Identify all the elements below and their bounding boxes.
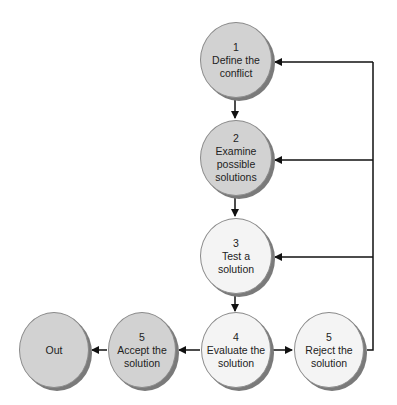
node-out: Out (19, 312, 89, 388)
node-label: solutions (215, 171, 256, 184)
node-number: 1 (233, 41, 239, 54)
node-label: Out (46, 344, 63, 357)
node-number: 4 (233, 331, 239, 344)
node-label: Accept the (117, 344, 167, 357)
node-label: conflict (220, 67, 253, 80)
node-number: 2 (233, 132, 239, 145)
node-define-conflict: 1 Define the conflict (200, 22, 272, 98)
node-label: Evaluate the (207, 344, 265, 357)
node-reject-solution: 5 Reject the solution (294, 312, 364, 388)
node-label: solution (124, 357, 160, 370)
node-number: 5 (326, 331, 332, 344)
node-examine-solutions: 2 Examine possible solutions (200, 120, 272, 196)
node-label: solution (311, 357, 347, 370)
node-accept-solution: 5 Accept the solution (108, 312, 176, 388)
node-number: 5 (139, 331, 145, 344)
node-evaluate-solution: 4 Evaluate the solution (201, 312, 271, 388)
node-label: Reject the (305, 344, 352, 357)
node-test-solution: 3 Test a solution (200, 218, 272, 294)
feedback-line (367, 62, 373, 350)
node-label: Define the (212, 54, 260, 67)
node-number: 3 (233, 237, 239, 250)
node-label: Examine (216, 145, 257, 158)
node-label: solution (218, 357, 254, 370)
node-label: possible (217, 158, 256, 171)
node-label: solution (218, 263, 254, 276)
node-label: Test a (222, 250, 250, 263)
